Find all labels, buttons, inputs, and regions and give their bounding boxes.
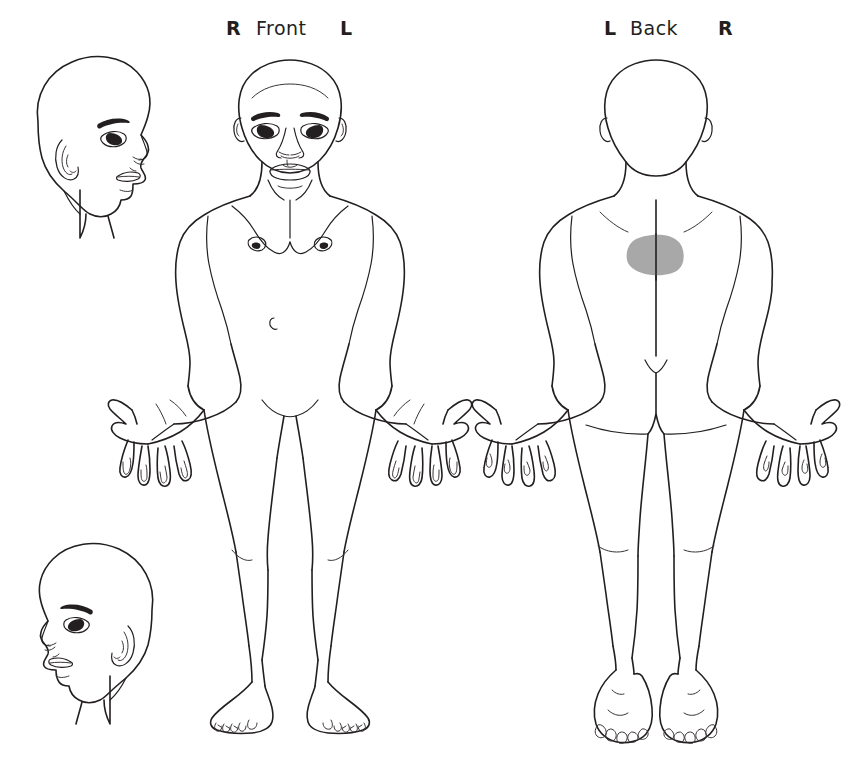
head-profile-right-facing-icon[interactable] (37, 57, 150, 238)
body-front-view-figure[interactable] (108, 60, 471, 733)
head-profile-left-facing-icon[interactable] (39, 544, 152, 724)
pain-region-1-shading[interactable] (627, 235, 684, 276)
pain-body-chart[interactable] (0, 0, 843, 765)
body-back-view-figure[interactable] (472, 60, 839, 743)
